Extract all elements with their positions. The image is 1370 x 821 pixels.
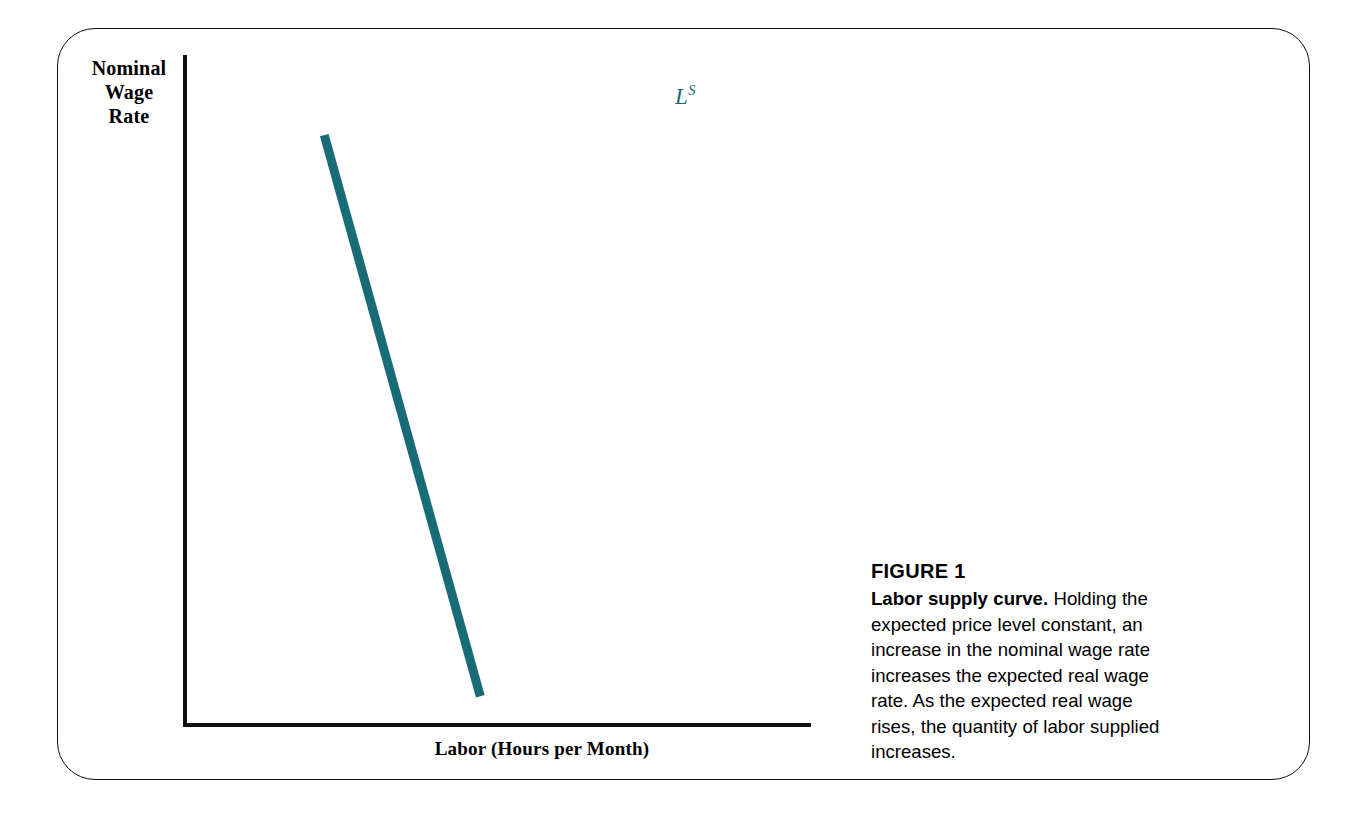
caption-text: Labor supply curve. Holding the expected…: [871, 586, 1171, 765]
x-axis-label: Labor (Hours per Month): [237, 738, 847, 760]
figure-root: Nominal Wage Rate LS Labor (Hours per Mo…: [0, 0, 1370, 821]
labor-supply-curve-line: [324, 135, 480, 696]
labor-supply-curve-svg: [57, 28, 857, 780]
caption-body-text: Holding the expected price level constan…: [871, 588, 1159, 762]
curve-label-superscript: S: [688, 82, 695, 98]
figure-number: FIGURE 1: [871, 560, 1171, 583]
plot-area: Nominal Wage Rate LS Labor (Hours per Mo…: [57, 28, 857, 780]
curve-label-ls: LS: [675, 82, 695, 110]
curve-label-letter: L: [675, 84, 688, 109]
caption-lead: Labor supply curve.: [871, 588, 1048, 609]
figure-caption: FIGURE 1 Labor supply curve. Holding the…: [871, 560, 1171, 765]
